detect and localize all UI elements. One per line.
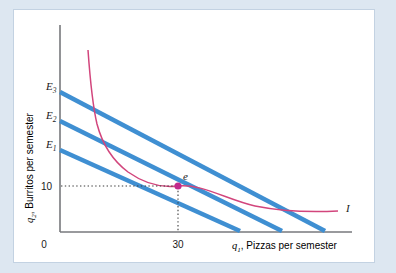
y-axis-symbol: q2 (24, 214, 35, 223)
y-axis-title: q2, Burritos per semester (24, 23, 38, 223)
equilibrium-point-label: e (183, 170, 188, 182)
x-axis-symbol: q1 (232, 240, 241, 251)
budget-line-E1-label: E1 (45, 138, 56, 153)
y-tick-label-10: 10 (41, 181, 53, 192)
budget-line-E3-label: E3 (45, 80, 57, 95)
indifference-curve-chart: E3 E2 E1 I e 10 30 0 (0, 0, 396, 273)
origin-label: 0 (41, 239, 47, 250)
indifference-curve-I (88, 50, 338, 211)
x-axis-title: q1, Pizzas per semester (232, 240, 337, 254)
budget-line-E2-label: E2 (45, 109, 57, 124)
figure-container: E3 E2 E1 I e 10 30 0 q1, Pizzas per seme… (0, 0, 396, 273)
budget-line-E1 (60, 150, 240, 231)
equilibrium-point-marker (174, 182, 181, 189)
indifference-curve-I-label: I (345, 202, 351, 214)
y-axis-title-text: , Burritos per semester (24, 113, 35, 214)
x-axis-title-text: , Pizzas per semester (241, 240, 337, 251)
x-tick-label-30: 30 (172, 239, 184, 250)
budget-line-E2 (60, 121, 282, 231)
